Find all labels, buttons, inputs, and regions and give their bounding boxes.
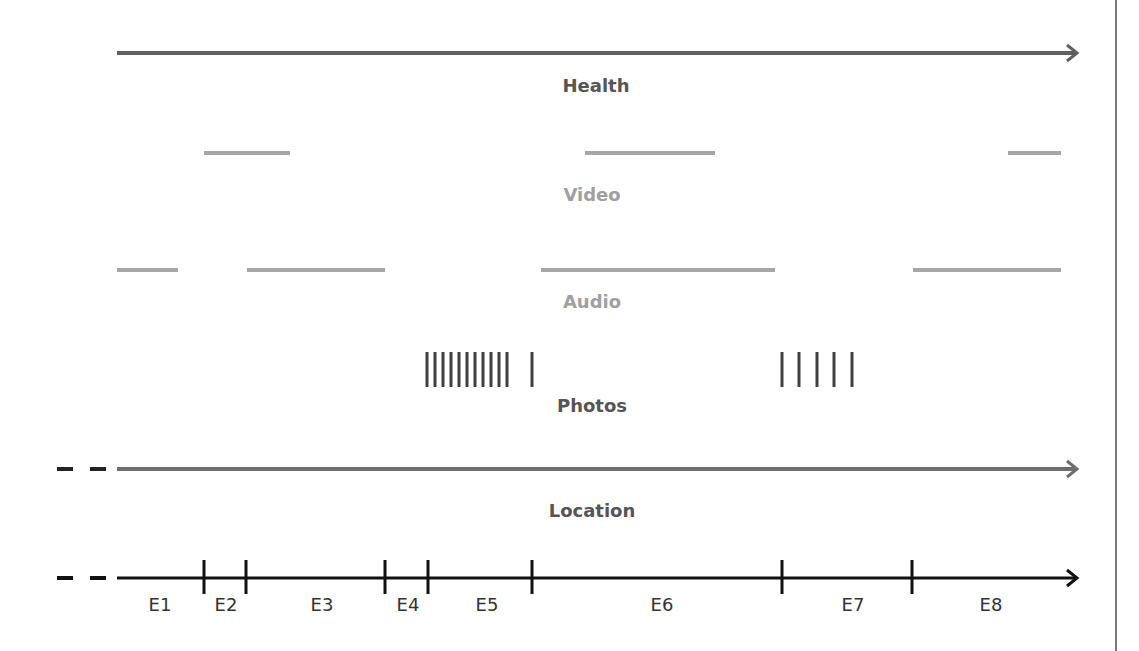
photos-label: Photos — [557, 395, 627, 416]
photos-stream — [427, 352, 852, 387]
event-label: E2 — [215, 594, 238, 615]
timeline-canvas: E1E2E3E4E5E6E7E8 Health Video Audio Phot… — [0, 0, 1139, 651]
event-label: E4 — [397, 594, 420, 615]
event-label: E1 — [149, 594, 172, 615]
events-axis: E1E2E3E4E5E6E7E8 — [57, 560, 1077, 615]
stream-labels: Health Video Audio Photos Location — [549, 75, 636, 521]
event-label: E7 — [842, 594, 865, 615]
audio-label: Audio — [563, 291, 621, 312]
event-label: E6 — [651, 594, 674, 615]
health-label: Health — [562, 75, 629, 96]
health-stream — [117, 45, 1077, 61]
event-label: E3 — [311, 594, 334, 615]
event-label: E8 — [980, 594, 1003, 615]
location-stream — [57, 461, 1077, 477]
event-label: E5 — [476, 594, 499, 615]
location-label: Location — [549, 500, 636, 521]
video-label: Video — [563, 184, 620, 205]
lifelog-timeline-diagram: E1E2E3E4E5E6E7E8 Health Video Audio Phot… — [0, 0, 1139, 651]
right-border-divider — [1115, 0, 1117, 651]
